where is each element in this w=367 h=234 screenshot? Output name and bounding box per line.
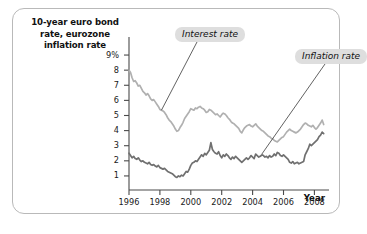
annotation-inflation-rate: Inflation rate [295, 49, 367, 64]
annotation-leader-line [161, 42, 197, 110]
x-tick-label: 2002 [205, 197, 239, 207]
y-tick-label: 1 [93, 170, 119, 180]
y-tick-label: 8 [93, 65, 119, 75]
annotation-interest-rate: Interest rate [175, 27, 245, 42]
chart-figure: 10-year euro bond rate, eurozone inflati… [12, 8, 340, 214]
x-tick-label: 2006 [267, 197, 301, 207]
x-tick-label: 2008 [297, 197, 331, 207]
y-tick-label: 4 [93, 125, 119, 135]
y-tick-label: 9% [93, 50, 119, 60]
x-tick-label: 2004 [236, 197, 270, 207]
y-tick-label: 3 [93, 140, 119, 150]
series-line-interest-rate [129, 70, 324, 142]
y-tick-label: 7 [93, 80, 119, 90]
series-line-inflation-rate [129, 132, 324, 177]
x-tick-label: 1996 [112, 197, 146, 207]
y-tick-label: 2 [93, 155, 119, 165]
x-tick-label: 2000 [174, 197, 208, 207]
y-tick-label: 5 [93, 110, 119, 120]
x-tick-label: 1998 [143, 197, 177, 207]
y-tick-label: 6 [93, 95, 119, 105]
